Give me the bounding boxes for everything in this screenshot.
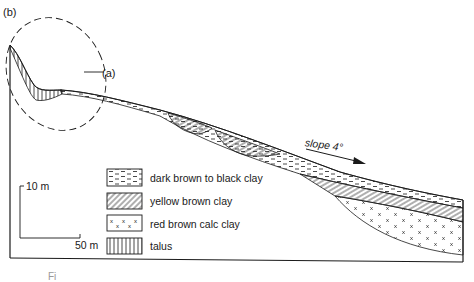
svg-text:x: x xyxy=(128,223,131,229)
inset-reference-label: (a) xyxy=(102,67,115,79)
svg-text:x: x xyxy=(116,223,119,229)
svg-text:x: x xyxy=(122,218,125,224)
yellow-brown-clay-lens-2 xyxy=(215,130,280,156)
scale-bar xyxy=(20,186,80,238)
legend-label-dark-brown-clay: dark brown to black clay xyxy=(150,172,263,184)
panel-label: (b) xyxy=(3,6,16,18)
scale-vertical-label: 10 m xyxy=(26,180,49,192)
legend-swatch-yellow-brown-clay xyxy=(107,193,142,209)
scale-horizontal-label: 50 m xyxy=(75,239,98,251)
figure-caption-fragment: Fi xyxy=(48,271,56,282)
legend-label-yellow-brown-clay: yellow brown clay xyxy=(150,195,232,207)
legend-swatch-talus xyxy=(107,238,142,254)
legend-label-red-brown-calc-clay: red brown calc clay xyxy=(150,218,240,230)
legend: xxxxx xyxy=(107,169,142,254)
legend-label-talus: talus xyxy=(150,240,172,252)
talus-unit xyxy=(10,45,62,101)
legend-swatch-dark-brown-clay xyxy=(107,169,142,186)
svg-text:x: x xyxy=(110,218,113,224)
svg-text:x: x xyxy=(134,218,137,224)
